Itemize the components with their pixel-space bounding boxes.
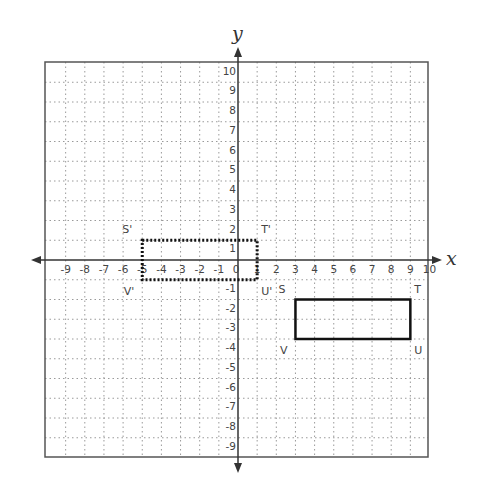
y-axis-up-arrow-icon	[234, 47, 242, 57]
x-tick-label: -7	[99, 263, 109, 275]
y-axis-label: y	[231, 22, 243, 44]
vertex-label: V'	[124, 285, 135, 298]
y-tick-label: 10	[223, 65, 236, 77]
y-tick-label: -1	[226, 282, 236, 294]
x-tick-label: 6	[350, 263, 357, 275]
y-tick-label: -7	[226, 400, 236, 412]
y-tick-label: 9	[229, 84, 236, 96]
x-axis-label: x	[446, 247, 457, 269]
y-tick-label: -4	[226, 341, 237, 353]
vertex-label: U'	[261, 285, 272, 298]
rectangles: STUVS'T'U'V'	[122, 223, 422, 357]
vertex-label: S'	[122, 223, 132, 236]
x-tick-label: 2	[273, 263, 280, 275]
x-tick-label: -1	[214, 263, 224, 275]
vertex-label: S	[278, 283, 285, 296]
x-tick-label: 8	[388, 263, 395, 275]
vertex-label: T'	[260, 223, 271, 236]
y-tick-label: -2	[226, 302, 236, 314]
x-tick-label: 0	[233, 263, 240, 275]
x-tick-label: 4	[311, 263, 318, 275]
y-tick-label: -9	[226, 440, 236, 452]
x-tick-label: 10	[423, 263, 436, 275]
x-tick-label: -4	[156, 263, 167, 275]
y-tick-label: 7	[229, 124, 236, 136]
y-axis-down-arrow-icon	[234, 463, 242, 473]
coordinate-plane: x y -9-8-7-6-5-4-3-2-1012345678910 12345…	[0, 0, 487, 492]
x-tick-label: -9	[60, 263, 70, 275]
x-tick-label: 5	[330, 263, 337, 275]
y-tick-label: 6	[229, 144, 236, 156]
x-tick-label: 3	[292, 263, 299, 275]
x-tick-label: 7	[369, 263, 376, 275]
y-tick-label: -5	[226, 361, 236, 373]
x-tick-label: 1	[254, 263, 261, 275]
vertex-label: T	[413, 283, 421, 296]
y-tick-label: 3	[229, 203, 236, 215]
x-tick-label: -2	[194, 263, 204, 275]
x-axis-left-arrow-icon	[31, 256, 41, 264]
y-tick-labels: 12345678910-1-2-3-4-5-6-7-8-9	[223, 65, 237, 452]
y-tick-label: -3	[226, 321, 236, 333]
x-tick-labels: -9-8-7-6-5-4-3-2-1012345678910	[60, 263, 436, 275]
x-tick-label: 9	[407, 263, 414, 275]
y-tick-label: 1	[229, 242, 236, 254]
x-tick-label: -3	[175, 263, 185, 275]
y-tick-label: -8	[226, 420, 236, 432]
y-tick-label: -6	[226, 381, 237, 393]
x-tick-label: -8	[80, 263, 90, 275]
y-tick-label: 4	[229, 183, 236, 195]
vertex-label: V	[280, 344, 288, 357]
y-tick-label: 8	[229, 104, 236, 116]
x-tick-label: -6	[118, 263, 129, 275]
y-tick-label: 5	[229, 163, 236, 175]
vertex-label: U	[414, 344, 422, 357]
y-tick-label: 2	[229, 223, 236, 235]
